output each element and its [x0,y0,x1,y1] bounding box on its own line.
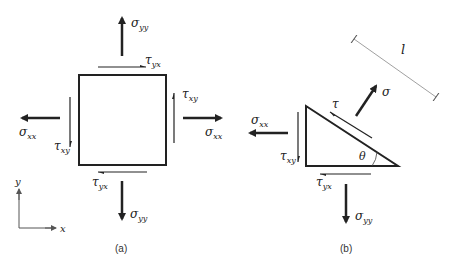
label-length: l [401,42,405,57]
label-tau-xy: τxy [280,149,296,165]
label-tau: τ [332,97,339,111]
panel-a: σyy τyx τxy σxx σxx τxy τyx σyy y x (a) [14,16,223,254]
panel-b: l σ τ σxx τxy θ τyx σyy (b) [250,39,436,254]
sigma-normal-arrow [356,86,376,116]
label-sigma-yy: σyy [355,209,373,225]
label-sigma-xx: σxx [251,113,269,129]
caption-b: (b) [340,243,352,254]
label-sigma: σ [382,85,391,99]
stress-element-diagram: σyy τyx τxy σxx σxx τxy τyx σyy y x (a) [0,0,455,272]
label-sigma-yy-top: σyy [131,16,149,32]
label-tau-xy-right: τxy [182,87,198,103]
x-axis-label: x [60,223,66,234]
axes-lines [19,190,55,228]
label-tau-yx-top: τyx [145,53,161,69]
stress-element-square [79,75,166,165]
label-sigma-xx-right: σxx [205,125,223,141]
label-theta: θ [359,150,366,163]
label-sigma-xx-left: σxx [19,125,37,141]
label-sigma-yy-bottom: σyy [130,207,148,223]
caption-a: (a) [115,243,127,254]
label-tau-xy-left: τxy [54,139,70,155]
coordinate-axes: y x [14,176,66,234]
length-dimension-line [354,39,436,97]
y-axis-label: y [14,176,21,187]
stress-element-triangle [306,106,398,166]
theta-arc [372,152,377,166]
label-tau-yx: τyx [316,175,332,191]
label-tau-yx-bottom: τyx [92,175,108,191]
